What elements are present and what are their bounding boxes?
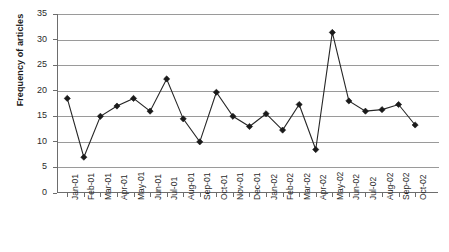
data-point-marker — [164, 76, 170, 82]
x-axis-tick-mark — [183, 193, 184, 197]
x-axis-tick-label: Feb-02 — [286, 173, 295, 200]
x-axis-tick-mark — [233, 193, 234, 197]
y-axis-tick-mark — [53, 193, 57, 194]
x-axis-tick-label: Oct-01 — [220, 174, 229, 200]
x-axis-tick-mark — [283, 193, 284, 197]
series-line — [67, 32, 415, 157]
x-axis-tick-mark — [382, 193, 383, 197]
x-axis-tick-label: Jul-02 — [369, 177, 378, 200]
data-point-marker — [97, 113, 103, 119]
x-axis-tick-mark — [266, 193, 267, 197]
data-point-marker — [329, 29, 335, 35]
y-axis-tick-label: 30 — [21, 35, 47, 44]
data-point-marker — [230, 113, 236, 119]
y-axis-tick-mark — [53, 65, 57, 66]
y-axis-tick-mark — [53, 90, 57, 91]
x-axis-tick-label: Nov-01 — [236, 173, 245, 200]
x-axis-tick-mark — [365, 193, 366, 197]
data-point-marker — [362, 108, 368, 114]
y-axis-tick-label: 20 — [21, 86, 47, 95]
data-point-marker — [81, 154, 87, 160]
x-axis-tick-mark — [316, 193, 317, 197]
x-axis-tick-label: Mar-01 — [104, 173, 113, 200]
y-axis-tick-label: 15 — [21, 111, 47, 120]
x-axis-tick-label: Jan-02 — [270, 174, 279, 200]
x-axis-tick-mark — [84, 193, 85, 197]
x-axis-tick-label: Aug-01 — [187, 173, 196, 200]
x-axis-tick-label: Jun-01 — [154, 174, 163, 200]
data-point-marker — [379, 107, 385, 113]
data-series-layer — [0, 0, 449, 252]
x-axis-tick-mark — [100, 193, 101, 197]
y-axis-tick-mark — [53, 14, 57, 15]
data-point-marker — [114, 103, 120, 109]
x-axis-tick-mark — [200, 193, 201, 197]
x-axis-tick-mark — [399, 193, 400, 197]
y-axis-tick-label: 10 — [21, 137, 47, 146]
y-axis-tick-mark — [53, 116, 57, 117]
x-axis-tick-label: Dec-01 — [253, 173, 262, 200]
x-axis-tick-mark — [134, 193, 135, 197]
y-axis-tick-mark — [53, 39, 57, 40]
data-point-markers — [64, 29, 418, 160]
x-axis-tick-mark — [299, 193, 300, 197]
x-axis-tick-label: Sep-02 — [402, 173, 411, 200]
x-axis-tick-mark — [167, 193, 168, 197]
data-point-marker — [313, 146, 319, 152]
x-axis-tick-label: Feb-01 — [87, 173, 96, 200]
x-axis-tick-label: Jun-02 — [352, 174, 361, 200]
y-axis-tick-mark — [53, 167, 57, 168]
data-point-marker — [64, 95, 70, 101]
x-axis-tick-mark — [216, 193, 217, 197]
x-axis-tick-label: May-01 — [137, 172, 146, 200]
y-axis-tick-label: 35 — [21, 9, 47, 18]
x-axis-tick-label: Jul-01 — [170, 177, 179, 200]
data-point-marker — [213, 89, 219, 95]
x-axis-tick-mark — [332, 193, 333, 197]
x-axis-tick-label: Sep-01 — [203, 173, 212, 200]
x-axis-tick-label: Oct-02 — [419, 174, 428, 200]
y-axis-tick-mark — [53, 141, 57, 142]
y-axis-tick-label: 25 — [21, 60, 47, 69]
data-point-marker — [296, 101, 302, 107]
x-axis-tick-mark — [349, 193, 350, 197]
x-axis-tick-label: Apr-01 — [120, 174, 129, 200]
chart-container: Frequency of articles 05101520253035 Jan… — [0, 0, 449, 252]
y-axis-tick-label: 0 — [21, 188, 47, 197]
x-axis-tick-label: May-02 — [336, 172, 345, 200]
x-axis-tick-mark — [150, 193, 151, 197]
x-axis-tick-mark — [249, 193, 250, 197]
x-axis-tick-mark — [415, 193, 416, 197]
data-point-marker — [346, 98, 352, 104]
x-axis-tick-label: Mar-02 — [303, 173, 312, 200]
x-axis-tick-label: Jan-01 — [71, 174, 80, 200]
x-axis-tick-mark — [67, 193, 68, 197]
x-axis-tick-label: Apr-02 — [319, 174, 328, 200]
y-axis-tick-label: 5 — [21, 162, 47, 171]
x-axis-tick-mark — [117, 193, 118, 197]
x-axis-tick-label: Aug-02 — [386, 173, 395, 200]
